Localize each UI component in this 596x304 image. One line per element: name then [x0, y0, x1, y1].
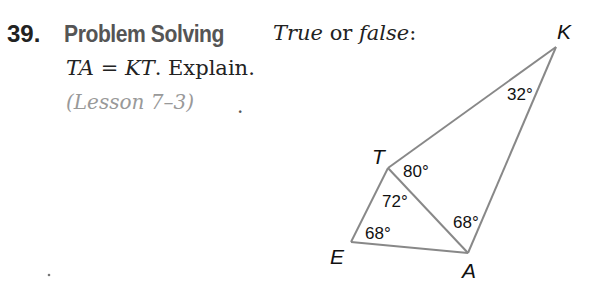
angle-kat: 68° [453, 213, 479, 232]
angle-e: 68° [365, 224, 391, 243]
angle-eta: 72° [382, 192, 408, 211]
vertex-label-k: K [557, 20, 572, 43]
geometry-figure: K T E A 32° 80° 72° 68° 68° [0, 0, 596, 304]
angle-kta: 80° [403, 162, 429, 181]
segment-ea [351, 242, 468, 253]
vertex-label-t: T [372, 145, 387, 168]
speck [48, 274, 51, 277]
vertex-label-a: A [460, 259, 476, 282]
angle-k: 32° [507, 85, 533, 104]
vertex-label-e: E [330, 245, 345, 268]
